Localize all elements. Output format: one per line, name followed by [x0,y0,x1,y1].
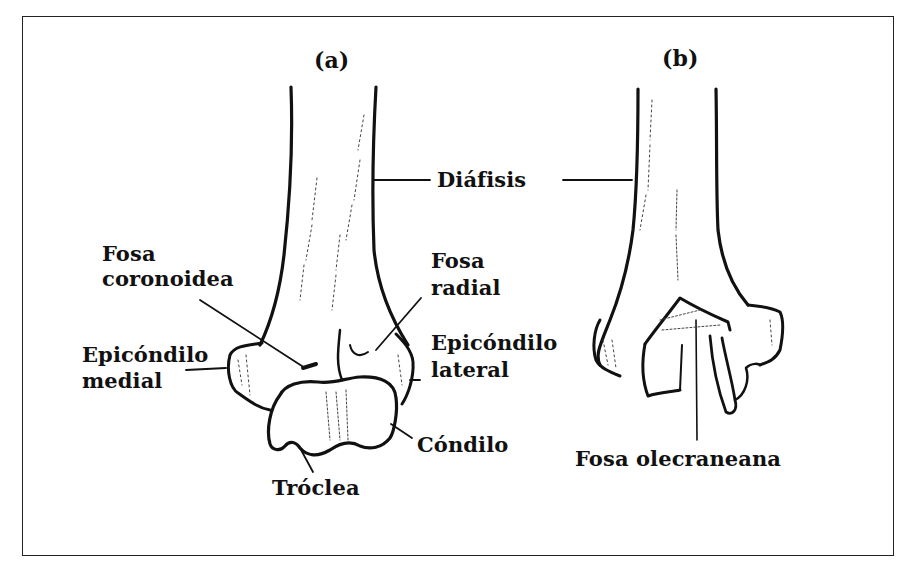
label-fosa-olecraneana: Fosa olecraneana [575,446,781,471]
label-diafisis: Diáfisis [437,167,526,192]
label-fosa-radial-line1: Fosa [431,248,485,273]
label-epicondilo-lateral-line2: lateral [431,357,509,382]
leader-lines [186,180,632,472]
label-epicondilo-medial-line2: medial [82,368,162,393]
label-troclea: Tróclea [272,475,360,500]
label-fosa-coronoidea-line2: coronoidea [102,266,234,291]
label-epicondilo-medial-line1: Epicóndilo [82,342,208,367]
label-fosa-radial-line2: radial [431,275,501,300]
label-fosa-coronoidea-line1: Fosa [102,241,156,266]
label-epicondilo-lateral-line1: Epicóndilo [431,330,557,355]
humerus-posterior-view [594,89,783,440]
humerus-anterior-view [228,87,413,455]
panel-label-a: (a) [314,48,349,73]
label-condilo: Cóndilo [417,432,508,457]
panel-label-b: (b) [662,46,699,71]
